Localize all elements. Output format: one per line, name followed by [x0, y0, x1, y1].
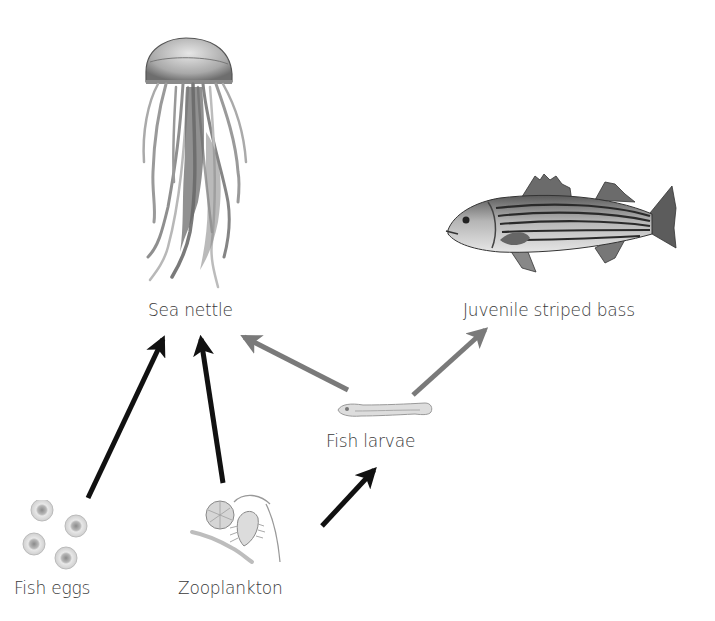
label-sea-nettle: Sea nettle: [148, 300, 233, 320]
fish-larva-illustration: [335, 400, 435, 420]
arrow-fish-eggs-to-sea-nettle: [88, 339, 163, 498]
striped-bass-illustration: [440, 168, 680, 283]
fish-eggs-illustration: [20, 500, 90, 580]
arrow-zooplankton-to-sea-nettle: [201, 339, 223, 483]
label-fish-larvae: Fish larvae: [326, 431, 415, 451]
label-fish-eggs: Fish eggs: [14, 578, 90, 598]
label-zooplankton: Zooplankton: [178, 578, 283, 598]
egg: [55, 547, 77, 569]
egg: [23, 533, 45, 555]
egg: [65, 515, 87, 537]
label-juvenile-striped-bass: Juvenile striped bass: [463, 300, 635, 320]
food-web-diagram: Sea nettle Juvenile striped bass: [0, 0, 715, 621]
jellyfish-illustration: [128, 32, 268, 292]
zooplankton-illustration: [188, 490, 288, 570]
egg: [31, 500, 53, 521]
arrow-zooplankton-to-fish-larvae: [322, 470, 374, 526]
arrow-fish-larvae-to-bass: [413, 330, 485, 395]
arrow-fish-larvae-to-sea-nettle: [244, 337, 348, 390]
